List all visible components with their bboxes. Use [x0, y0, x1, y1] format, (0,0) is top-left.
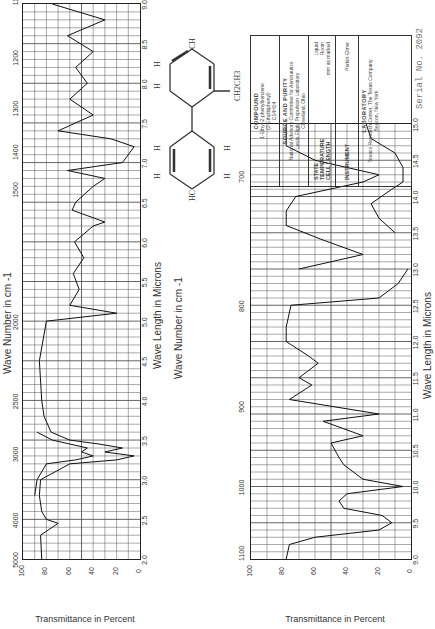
micron-tick: 2.0	[141, 555, 148, 565]
y-tick: 40	[88, 567, 95, 575]
wavenumber-tick: 2500	[12, 394, 19, 410]
y-axis-title: Transmittance in Percent	[35, 614, 135, 624]
top-chart-plot	[22, 3, 141, 560]
y-tick: 60	[310, 567, 317, 575]
svg-text:H: H	[153, 61, 162, 67]
y-tick: 20	[374, 567, 381, 575]
compound-formula: C14H14	[271, 40, 277, 182]
micron-tick: 11.5	[412, 372, 419, 385]
bottom-chart-wavelength-title: Wave Length in Microns	[422, 292, 433, 399]
conditions-section: STATELiquid TEMPERATURERoom CELL LENGTHm…	[309, 36, 336, 186]
y-tick: 60	[65, 567, 72, 575]
wavenumber-tick: 1200	[12, 50, 19, 66]
micron-tick: 4.5	[141, 357, 148, 367]
bottom-chart-plot	[250, 123, 412, 560]
y-tick: 100	[18, 565, 25, 577]
micron-tick: 3.0	[141, 476, 148, 486]
micron-tick: 11.0	[412, 408, 419, 421]
wavenumber-tick: 1000	[238, 480, 245, 496]
wavenumber-tick: 1300	[12, 101, 19, 117]
cell-length-value: mm as marked	[325, 42, 331, 75]
wavenumber-tick: 1100	[12, 0, 19, 5]
wavenumber-tick: 2000	[12, 314, 19, 330]
molecule-structure: HC HH HH HH CH CH2CH3	[142, 9, 247, 209]
wavenumber-tick: 800	[238, 300, 245, 312]
y-axis-title: Transmittance in Percent	[285, 614, 385, 624]
y-tick: 0	[406, 569, 413, 573]
svg-text:H: H	[153, 145, 162, 151]
instrument-section: INSTRUMENTPerkin-Elmer	[336, 36, 359, 186]
y-tick: 0	[135, 569, 142, 573]
wavenumber-tick: 4000	[12, 513, 19, 529]
mol-hc: HC	[188, 190, 197, 201]
wavenumber-tick: 3000	[12, 447, 19, 463]
instrument-value: Perkin-Elmer	[344, 42, 350, 71]
micron-tick: 13.0	[412, 263, 419, 277]
micron-tick: 12.5	[412, 299, 419, 313]
y-tick: 40	[342, 567, 349, 575]
bottom-chart-wavenumber-title: Wave Number in cm -1	[173, 277, 184, 379]
cell-length-label: CELL LENGTH	[325, 142, 331, 180]
micron-tick: 3.5	[141, 436, 148, 446]
svg-text:H: H	[223, 145, 232, 151]
info-box: COMPOUND 1-Ethyl-2-phenylbenzene (2-Ethy…	[250, 35, 412, 187]
wavenumber-tick: 1100	[238, 546, 245, 561]
y-tick: 100	[246, 565, 253, 577]
spectrum-page: Wave Number in cm -1 5000400030002500200…	[0, 0, 435, 629]
top-chart-wavelength-title: Wave Length in Microns	[152, 262, 163, 369]
wavenumber-tick: 1400	[12, 144, 19, 160]
wavenumber-tick: 900	[238, 401, 245, 413]
micron-tick: 9.5	[412, 519, 419, 529]
micron-tick: 15.0	[412, 118, 419, 132]
micron-tick: 14.0	[412, 191, 419, 205]
svg-text:H: H	[223, 173, 232, 179]
micron-tick: 13.5	[412, 227, 419, 241]
serial-number: Serial No. 2092	[415, 28, 425, 109]
compound-section: COMPOUND 1-Ethyl-2-phenylbenzene (2-Ethy…	[251, 36, 280, 186]
mol-substituent: CH2CH3	[233, 71, 242, 101]
svg-text:CH: CH	[188, 38, 197, 49]
instrument-label: INSTRUMENT	[344, 144, 350, 180]
micron-tick: 2.5	[141, 515, 148, 525]
laboratory-section: LABORATORY Texaco Research Center, The T…	[359, 36, 381, 186]
svg-text:H: H	[153, 173, 162, 179]
micron-tick: 10.5	[412, 444, 419, 458]
y-tick: 80	[41, 567, 48, 575]
top-chart-svg	[23, 4, 140, 559]
micron-tick: 5.0	[141, 317, 148, 327]
source-line-3: Cleveland, Ohio	[300, 40, 306, 182]
micron-tick: 9.0	[412, 555, 419, 565]
y-tick: 80	[278, 567, 285, 575]
micron-tick: 12.0	[412, 336, 419, 350]
svg-text:H: H	[153, 83, 162, 89]
laboratory-line-2: Beacon, New York	[373, 40, 379, 182]
micron-tick: 4.0	[141, 397, 148, 407]
y-tick: 20	[112, 567, 119, 575]
micron-tick: 14.5	[412, 154, 419, 168]
micron-tick: 10.0	[412, 481, 419, 495]
wavenumber-tick: 1500	[12, 182, 19, 198]
micron-tick: 6.0	[141, 238, 148, 248]
bottom-chart-svg	[251, 124, 411, 559]
micron-tick: 5.5	[141, 278, 148, 288]
source-section: SOURCE AND PURITY National Advisory Comm…	[280, 36, 309, 186]
